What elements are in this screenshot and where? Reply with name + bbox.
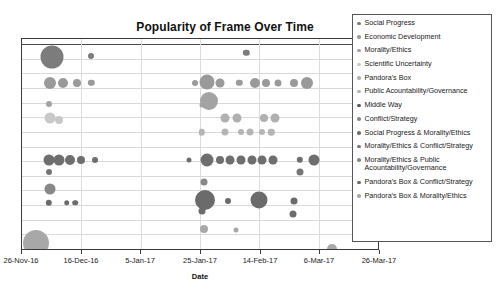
legend-item-label: Conflict/Strategy — [365, 115, 418, 124]
plot-inner — [22, 39, 378, 249]
x-axis-tick-label: 26-Nov-16 — [3, 256, 38, 265]
gridline-vertical — [141, 39, 142, 249]
legend-item-label: Scientific Uncertainty — [365, 60, 432, 69]
data-bubble — [55, 116, 63, 124]
data-bubble — [46, 169, 52, 175]
legend-marker-icon — [357, 194, 361, 198]
legend-item-label: Morality/Ethics & Public Acountability/G… — [365, 156, 447, 173]
legend-item[interactable]: Conflict/Strategy — [357, 115, 488, 124]
x-axis-tick — [379, 250, 380, 254]
data-bubble — [236, 80, 242, 86]
gridline-vertical — [319, 39, 320, 249]
gridline-vertical — [259, 39, 260, 249]
x-axis-tick — [140, 250, 141, 254]
legend-marker-icon — [357, 35, 361, 39]
data-bubble — [296, 169, 303, 176]
data-bubble — [260, 114, 268, 122]
legend-item[interactable]: Scientific Uncertainty — [357, 60, 488, 69]
data-bubble — [233, 228, 238, 233]
legend-marker-icon — [357, 145, 361, 149]
legend-item[interactable]: Social Progress & Morality/Ethics — [357, 129, 488, 138]
data-bubble — [200, 178, 207, 185]
data-bubble — [236, 155, 245, 164]
legend-item[interactable]: Public Acountability/Governance — [357, 87, 488, 96]
data-bubble — [199, 103, 204, 108]
legend-marker-icon — [357, 181, 361, 185]
data-bubble — [195, 190, 215, 210]
legend-marker-icon — [357, 131, 361, 135]
x-axis-tick — [260, 250, 261, 254]
legend-item[interactable]: Pandora's Box & Conflict/Strategy — [357, 178, 488, 187]
x-axis-tick — [200, 250, 201, 254]
data-bubble — [308, 154, 319, 165]
data-bubble — [289, 211, 296, 218]
x-axis-tick-label: 25-Jan-17 — [183, 256, 217, 265]
legend-item-label: Pandora's Box & Morality/Ethics — [365, 192, 467, 201]
data-bubble — [243, 49, 249, 55]
data-bubble — [220, 113, 229, 122]
x-axis-tick-label: 6-Mar-17 — [304, 256, 334, 265]
legend-item[interactable]: Social Progress — [357, 19, 488, 28]
data-bubble — [23, 230, 49, 250]
legend-item-label: Public Acountability/Governance — [365, 87, 468, 96]
chart-legend: Social ProgressEconomic DevelopmentMoral… — [352, 14, 492, 242]
legend-marker-icon — [357, 104, 361, 108]
legend-item[interactable]: Economic Development — [357, 33, 488, 42]
data-bubble — [45, 184, 56, 195]
data-bubble — [250, 191, 267, 208]
legend-item-label: Morality/Ethics — [365, 46, 412, 55]
data-bubble — [73, 200, 79, 206]
data-bubble — [233, 113, 242, 122]
data-bubble — [88, 80, 94, 86]
data-bubble — [262, 79, 270, 87]
chart-container: Popularity of Frame Over Time 26-Nov-161… — [0, 0, 499, 295]
data-bubble — [54, 154, 65, 165]
legend-marker-icon — [357, 117, 361, 121]
data-bubble — [199, 129, 205, 135]
data-bubble — [201, 153, 214, 166]
data-bubble — [45, 112, 56, 123]
legend-marker-icon — [357, 63, 361, 67]
legend-marker-icon — [357, 22, 361, 26]
data-bubble — [258, 155, 267, 164]
legend-marker-icon — [357, 90, 361, 94]
data-bubble — [215, 79, 224, 88]
legend-item[interactable]: Morality/Ethics — [357, 46, 488, 55]
x-axis-tick — [319, 250, 320, 254]
data-bubble — [187, 157, 192, 162]
legend-item-label: Economic Development — [365, 33, 441, 42]
data-bubble — [268, 129, 274, 135]
legend-item[interactable]: Morality/Ethics & Conflict/Strategy — [357, 142, 488, 151]
x-axis-tick — [81, 250, 82, 254]
data-bubble — [290, 79, 298, 87]
legend-marker-icon — [357, 158, 361, 162]
data-bubble — [77, 156, 85, 164]
data-bubble — [259, 129, 265, 135]
legend-item-label: Social Progress — [365, 19, 415, 28]
data-bubble — [221, 129, 228, 136]
data-bubble — [65, 155, 75, 165]
legend-item[interactable]: Pandora's Box — [357, 74, 488, 83]
legend-item-label: Morality/Ethics & Conflict/Strategy — [365, 142, 473, 151]
data-bubble — [327, 244, 337, 250]
legend-item[interactable]: Morality/Ethics & Public Acountability/G… — [357, 156, 488, 173]
data-bubble — [301, 77, 313, 89]
legend-item-label: Pandora's Box — [365, 74, 412, 83]
data-bubble — [88, 53, 94, 59]
data-bubble — [270, 113, 279, 122]
data-bubble — [291, 197, 298, 204]
x-axis-tick-label: 16-Dec-16 — [63, 256, 98, 265]
x-axis-tick-label: 14-Feb-17 — [243, 256, 278, 265]
gridline-vertical — [200, 39, 201, 249]
data-bubble — [64, 200, 70, 206]
legend-item[interactable]: Middle Way — [357, 101, 488, 110]
data-bubble — [41, 45, 64, 68]
gridline-vertical — [81, 39, 82, 249]
legend-marker-icon — [357, 49, 361, 53]
legend-item[interactable]: Pandora's Box & Morality/Ethics — [357, 192, 488, 201]
data-bubble — [73, 79, 81, 87]
data-bubble — [238, 129, 244, 135]
data-bubble — [226, 155, 235, 164]
data-bubble — [200, 75, 215, 90]
data-bubble — [58, 78, 68, 88]
